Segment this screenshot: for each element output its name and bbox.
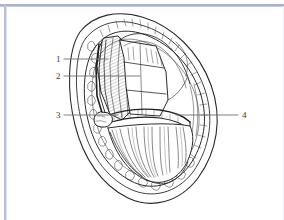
central-aponeurosis-flap	[120, 34, 190, 116]
label-4: 4	[242, 111, 247, 120]
label-3: 3	[56, 111, 61, 120]
screenshot-page: 1 2 3 4	[0, 0, 284, 220]
label-1: 1	[56, 55, 61, 64]
label-2: 2	[56, 72, 61, 81]
figure-ink-group	[64, 14, 238, 204]
